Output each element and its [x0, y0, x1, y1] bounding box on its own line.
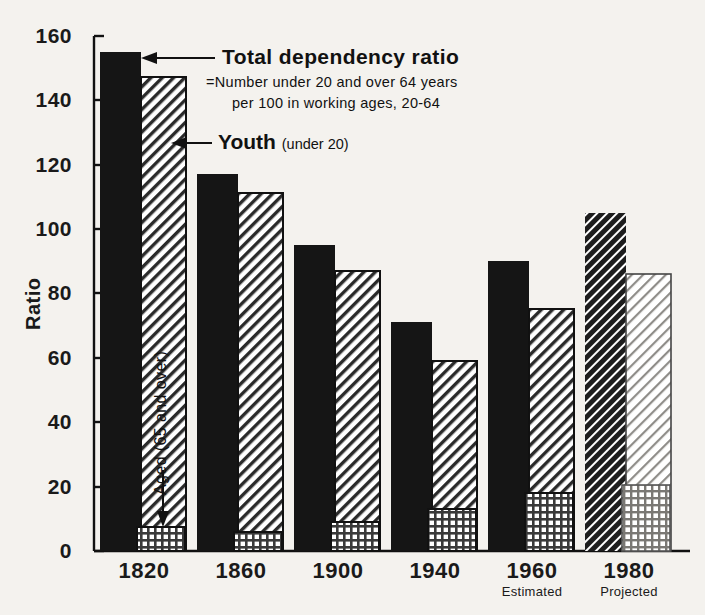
x-label-1960: 1960 [484, 558, 580, 584]
y-tick-40: 40 [10, 410, 72, 434]
annotation-youth: Youth (under 20) [218, 130, 349, 154]
x-label-1940: 1940 [387, 558, 483, 584]
y-tick-120: 120 [10, 153, 72, 177]
bar-aged-1940 [428, 509, 476, 551]
bar-aged-1860 [234, 532, 282, 551]
x-label-1860: 1860 [193, 558, 289, 584]
bar-aged-1960 [525, 493, 573, 551]
y-tick-60: 60 [10, 346, 72, 370]
bar-total-1960 [488, 261, 529, 551]
x-label-1980: 1980 [581, 558, 677, 584]
x-label-1820: 1820 [96, 558, 192, 584]
annotation-youth-paren: (under 20) [282, 136, 349, 152]
y-tick-140: 140 [10, 88, 72, 112]
annotation-total-line2: =Number under 20 and over 64 years [206, 74, 458, 90]
y-tick-100: 100 [10, 217, 72, 241]
bar-group-1820 [100, 52, 186, 551]
y-tick-160: 160 [10, 24, 72, 48]
bar-youth-1860 [238, 193, 283, 551]
annotation-total-line3: per 100 in working ages, 20-64 [232, 95, 440, 111]
y-axis-title: Ratio [22, 278, 45, 331]
bar-total-1860 [197, 174, 238, 551]
bar-youth-1900 [335, 271, 380, 551]
y-tick-0: 0 [10, 539, 72, 563]
x-label-1900: 1900 [290, 558, 386, 584]
dependency-ratio-chart [0, 0, 705, 615]
bar-group-1900 [294, 245, 380, 551]
bar-total-1820 [100, 52, 141, 551]
annotation-aged: Aged (65 and over) [152, 351, 170, 495]
bar-total-1900 [294, 245, 335, 551]
bar-aged-1900 [331, 522, 379, 551]
x-sublabel-1980: Projected [581, 584, 677, 599]
bar-total-1980 [585, 213, 626, 551]
y-tick-20: 20 [10, 475, 72, 499]
bar-group-1860 [197, 174, 283, 551]
annotation-youth-label: Youth [218, 130, 276, 153]
bar-aged-1820 [137, 527, 185, 551]
x-sublabel-1960: Estimated [484, 584, 580, 599]
annotation-total-title: Total dependency ratio [222, 45, 459, 69]
bar-total-1940 [391, 322, 432, 551]
bar-aged-1980 [622, 485, 670, 551]
